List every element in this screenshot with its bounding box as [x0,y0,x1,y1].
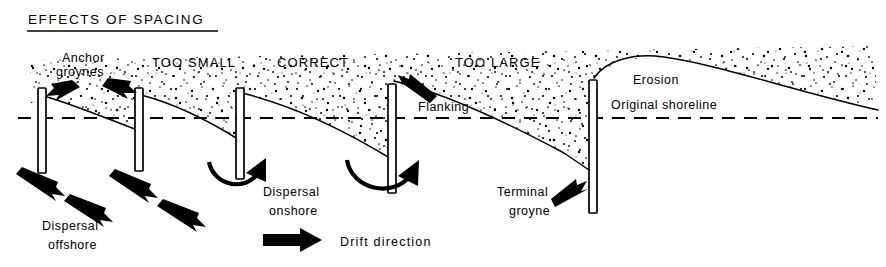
page-title: EFFECTS OF SPACING [28,12,204,27]
groyne-terminal[interactable] [589,80,597,213]
dispersal-offshore-arrows: Dispersal offshore [16,167,206,252]
dispersal-onshore-label-line1: Dispersal [263,185,320,199]
groyne-spacing-diagram: EFFECTS OF SPACING [0,0,886,267]
anchor-groynes-label-line2: groynes [56,65,104,79]
zone-label-too-large: TOO LARGE [455,55,541,70]
dispersal-offshore-label-line1: Dispersal [42,219,99,233]
figure-root: EFFECTS OF SPACING [0,0,886,267]
zone-label-correct: CORRECT [277,55,349,70]
groyne-anchor-2[interactable] [135,88,143,171]
drift-direction-arrow-icon [263,228,322,252]
zone-label-group: TOO SMALL CORRECT TOO LARGE [152,55,541,70]
drift-direction-legend: Drift direction [263,228,432,252]
zone-label-too-small: TOO SMALL [152,55,236,70]
terminal-groyne-label-line2: groyne [509,204,550,218]
groyne-4[interactable] [388,84,396,193]
terminal-groyne-label-line1: Terminal [497,185,548,199]
dispersal-onshore-label-line2: onshore [269,204,318,218]
offshore-arrow-3-icon [109,169,158,203]
original-shoreline-label-group: Original shoreline [607,96,767,112]
erosion-label: Erosion [633,73,679,87]
anchor-groynes-label-line1: Anchor [62,51,105,65]
dispersal-offshore-label-line2: offshore [48,238,97,252]
figure-title-group: EFFECTS OF SPACING [27,12,218,31]
groyne-3[interactable] [236,88,244,179]
terminal-groyne-arrow-icon [551,179,588,207]
drift-direction-label: Drift direction [340,235,432,249]
flanking-label: Flanking [418,100,469,114]
offshore-arrow-4-icon [157,199,206,232]
groyne-anchor-1[interactable] [38,88,46,173]
original-shoreline-label: Original shoreline [611,98,717,112]
terminal-groyne-annotation: Terminal groyne [497,179,588,218]
